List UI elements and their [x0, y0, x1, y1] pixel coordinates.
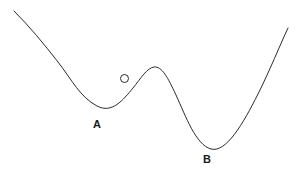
energy-landscape-diagram: A B [0, 0, 297, 177]
ball-icon [121, 75, 129, 83]
label-well-a: A [93, 119, 101, 130]
energy-curve-canvas [0, 0, 297, 177]
label-well-b: B [203, 154, 211, 165]
potential-energy-curve [14, 11, 288, 149]
